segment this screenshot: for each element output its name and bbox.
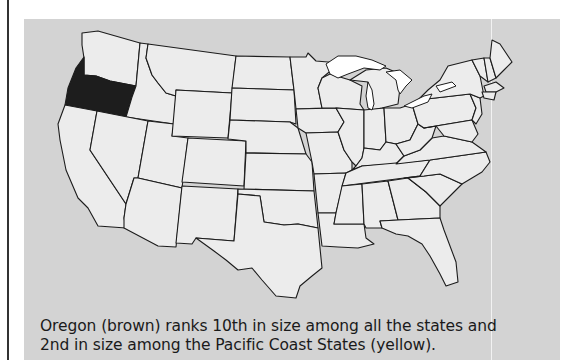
state-kansas xyxy=(244,153,314,191)
state-wyoming xyxy=(172,90,232,138)
state-north-dakota xyxy=(232,56,294,90)
state-iowa xyxy=(296,108,344,133)
state-new-mexico xyxy=(176,186,238,244)
state-massachusetts xyxy=(484,82,504,92)
caption-line-2: 2nd in size among the Pacific Coast Stat… xyxy=(40,336,540,355)
state-south-dakota xyxy=(230,88,296,124)
state-colorado xyxy=(182,138,246,186)
state-connecticut xyxy=(482,92,496,100)
us-map xyxy=(0,0,568,360)
map-caption: Oregon (brown) ranks 10th in size among … xyxy=(40,317,540,355)
state-arizona xyxy=(124,178,182,247)
caption-line-1: Oregon (brown) ranks 10th in size among … xyxy=(40,317,540,336)
state-florida xyxy=(380,218,458,286)
state-indiana xyxy=(364,108,386,150)
state-new-york xyxy=(418,60,484,100)
